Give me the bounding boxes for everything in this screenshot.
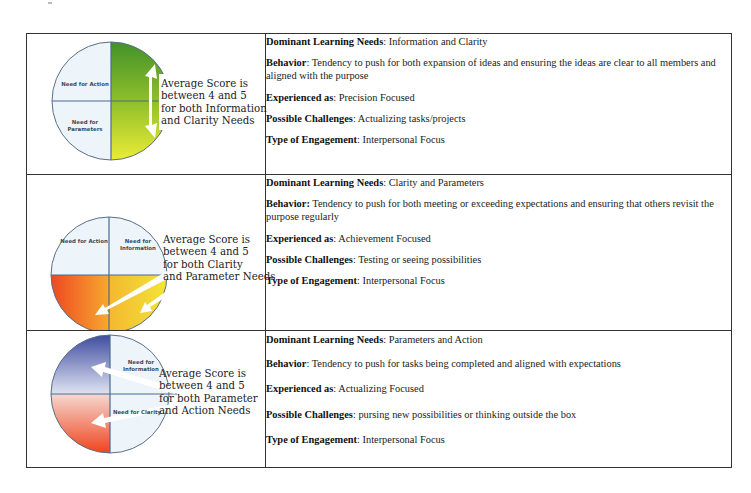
quadrant-label-top-left: Need for Action [59,238,109,245]
dominant-needs: Dominant Learning Needs: Information and… [266,35,731,48]
quadrant-label-bottom-left: Need for Parameters [60,119,110,133]
quadrant-visual-cell: Need for Action Need for Information Ave… [27,175,266,331]
possible-challenges: Possible Challenges: Actualizing tasks/p… [266,112,731,125]
description-cell: Dominant Learning Needs: Clarity and Par… [266,175,732,331]
table-row: Need for Information Need for Clarity Av… [27,331,732,468]
dominant-needs: Dominant Learning Needs: Parameters and … [266,333,731,346]
description-cell: Dominant Learning Needs: Information and… [266,34,732,175]
quadrant-label-top-right: Need for Information [113,238,163,252]
page-mark [48,2,52,4]
engagement-type: Type of Engagement: Interpersonal Focus [266,433,731,446]
score-callout: Average Score is between 4 and 5 for bot… [163,234,275,284]
table-row: Need for Action Need for Information Ave… [27,175,732,331]
behavior: Behavior: Tendency to push for both meet… [266,197,731,223]
quadrant-label-top-left: Need for Action [60,81,110,88]
possible-challenges: Possible Challenges: pursing new possibi… [266,408,731,421]
score-callout: Average Score is between 4 and 5 for bot… [161,78,267,128]
experienced-as: Experienced as: Actualizing Focused [266,382,731,395]
engagement-type: Type of Engagement: Interpersonal Focus [266,133,731,146]
possible-challenges: Possible Challenges: Testing or seeing p… [266,253,731,266]
table-row: Need for Action Need for Parameters Aver… [27,34,732,175]
dominant-needs: Dominant Learning Needs: Clarity and Par… [266,176,731,189]
learning-needs-table: Need for Action Need for Parameters Aver… [26,33,732,468]
behavior: Behavior: Tendency to push for both expa… [266,56,731,82]
description-cell: Dominant Learning Needs: Parameters and … [266,331,732,468]
experienced-as: Experienced as: Precision Focused [266,91,731,104]
score-callout: Average Score is between 4 and 5 for bot… [159,368,258,418]
quadrant-label-bottom-right: Need for Clarity [112,409,162,416]
quadrant-visual-cell: Need for Information Need for Clarity Av… [27,331,266,468]
quadrant-visual-cell: Need for Action Need for Parameters Aver… [27,34,266,175]
engagement-type: Type of Engagement: Interpersonal Focus [266,274,731,287]
experienced-as: Experienced as: Achievement Focused [266,232,731,245]
behavior: Behavior: Tendency to push for tasks bei… [266,357,731,370]
